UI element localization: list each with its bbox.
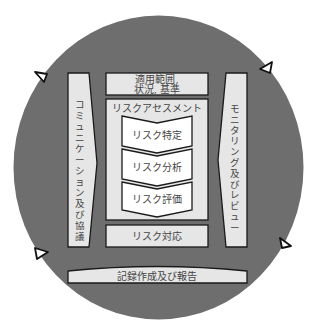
risk-identification-label: リスク特定 — [132, 129, 182, 141]
vertical-label-char: モ — [230, 103, 240, 114]
vertical-label-char: 議 — [75, 231, 85, 242]
risk-treatment-label: リスク対応 — [132, 230, 182, 242]
vertical-label-char: ー — [75, 154, 85, 165]
vertical-label-char: グ — [230, 157, 240, 168]
vertical-label-char: ビ — [230, 200, 240, 211]
vertical-label-char: シ — [75, 165, 85, 176]
communication-consultation-label: コミュニケーション及び協議 — [75, 99, 85, 242]
vertical-label-char: レ — [230, 189, 240, 200]
vertical-label-char: ュ — [75, 121, 85, 132]
risk-analysis-label: リスク分析 — [132, 161, 182, 173]
vertical-label-char: ニ — [230, 114, 240, 125]
vertical-label-char: 及 — [230, 168, 240, 179]
vertical-label-char: び — [75, 209, 85, 220]
vertical-label-char: ミ — [75, 110, 85, 121]
vertical-label-char: リ — [230, 135, 240, 146]
risk-evaluation-label: リスク評価 — [132, 193, 182, 205]
vertical-label-char: ン — [75, 187, 85, 198]
vertical-label-char: 協 — [75, 220, 85, 231]
scope-line-2: 状況, 基準 — [134, 83, 180, 95]
vertical-label-char: ー — [230, 222, 240, 233]
risk-management-diagram: コミュニケーション及び協議 モニタリング及びレビュー 適用範囲, 状況, 基準 … — [0, 0, 315, 332]
vertical-label-char: ュ — [230, 211, 240, 222]
vertical-label-char: タ — [230, 125, 240, 136]
risk-assessment-title: リスクアセスメント — [112, 103, 202, 114]
recording-reporting-label: 記録作成及び報告 — [117, 270, 197, 282]
vertical-label-char: ョ — [75, 176, 85, 187]
monitoring-review-label: モニタリング及びレビュー — [230, 103, 240, 233]
vertical-label-char: ニ — [75, 132, 85, 143]
vertical-label-char: 及 — [75, 198, 85, 209]
vertical-label-char: ン — [230, 146, 240, 157]
vertical-label-char: ケ — [75, 143, 85, 154]
vertical-label-char: び — [230, 179, 240, 190]
vertical-label-char: コ — [75, 99, 85, 110]
